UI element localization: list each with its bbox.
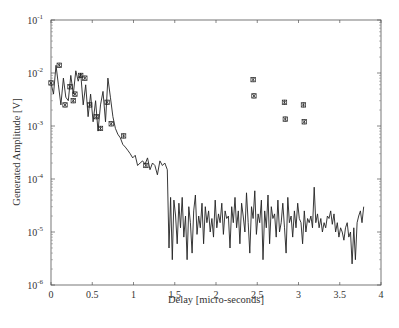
y-axis-label: Generated Amplitude [V] [11, 98, 22, 205]
marker-icon [79, 73, 83, 78]
marker-icon [282, 100, 286, 105]
x-tick-label: 3 [296, 289, 301, 300]
marker-icon [283, 117, 287, 122]
amplitude-line [51, 65, 364, 264]
data-markers [49, 63, 307, 168]
marker-icon [68, 84, 72, 89]
marker-icon [251, 77, 255, 82]
y-tick-label: 10-5 [27, 225, 43, 238]
axes-frame [51, 20, 381, 285]
x-tick-label: 4 [379, 289, 384, 300]
marker-icon [63, 102, 67, 107]
marker-icon [94, 114, 98, 119]
y-tick-label: 10-3 [27, 119, 43, 132]
marker-icon [71, 98, 75, 103]
marker-icon [105, 100, 109, 105]
marker-icon [301, 102, 305, 107]
x-axis-ticks: 00.511.522.533.54 [49, 20, 384, 300]
marker-icon [302, 119, 306, 124]
marker-icon [109, 121, 113, 126]
x-tick-label: 1 [131, 289, 136, 300]
marker-icon [98, 126, 102, 131]
y-axis-ticks: 10-610-510-410-310-210-1 [27, 13, 381, 291]
x-axis-label: Delay [micro-seconds] [168, 294, 264, 305]
y-tick-label: 10-6 [27, 278, 43, 291]
chart: 00.511.522.533.54 10-610-510-410-310-210… [0, 0, 399, 328]
marker-icon [57, 63, 61, 68]
marker-icon [121, 133, 125, 138]
x-tick-label: 0 [49, 289, 54, 300]
marker-icon [144, 163, 148, 168]
marker-icon [83, 76, 87, 81]
x-tick-label: 3.5 [334, 289, 347, 300]
y-tick-label: 10-1 [27, 13, 43, 26]
x-tick-label: 0.5 [86, 289, 99, 300]
marker-icon [252, 93, 256, 98]
y-tick-label: 10-2 [27, 66, 43, 79]
y-tick-label: 10-4 [27, 172, 43, 185]
